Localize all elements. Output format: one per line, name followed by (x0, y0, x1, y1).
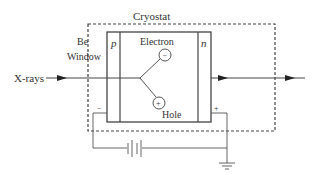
ground-icon (219, 163, 235, 169)
xrays-label: X-rays (14, 72, 44, 84)
xray-arrow-icon (57, 75, 67, 81)
circuit-right-wire (211, 113, 227, 163)
minus-terminal-label: − (97, 104, 102, 113)
electron-path (140, 59, 160, 78)
detector-diagram: Cryostat Be Window X-rays p n Electron H… (0, 0, 331, 175)
p-region-label: p (110, 37, 117, 49)
electron-label: Electron (140, 36, 174, 47)
exit-arrow-icon (285, 75, 295, 81)
cryostat-label: Cryostat (133, 10, 170, 22)
outgoing-arrow-icon (218, 75, 228, 81)
plus-terminal-label: + (214, 104, 219, 113)
be-window-label-line2: Window (67, 51, 102, 62)
electron-sign: − (163, 51, 168, 60)
hole-sign: + (156, 99, 161, 108)
n-region-label: n (201, 37, 207, 49)
hole-path (140, 78, 156, 97)
be-window-label-line1: Be (77, 36, 89, 47)
hole-label: Hole (162, 109, 182, 120)
